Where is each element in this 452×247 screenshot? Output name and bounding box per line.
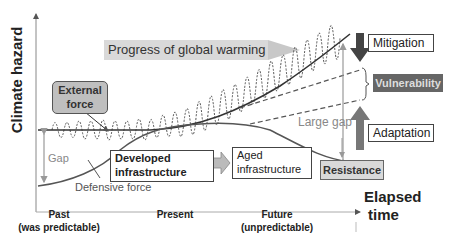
warming-arrow-head [268,40,300,60]
adaptation-box: Adaptation [368,124,434,142]
mitigation-box: Mitigation [368,34,434,52]
mitigation-arrow [350,33,370,62]
x-tick-present: Present [140,208,210,221]
aged-infrastructure-box: Aged infrastructure [232,147,312,179]
x-axis-label: Elapsed time [364,188,422,224]
large-gap-label: Large gap [298,115,352,129]
adaptation-arrow [350,106,370,150]
developed-infrastructure-box: Developed infrastructure [110,150,214,182]
x-tick-past: Past (was predictable) [14,208,104,234]
defensive-force-pointer [88,160,100,178]
dashed-line-upper [240,70,360,108]
x-tick-future: Future (unpredictable) [232,208,322,234]
defensive-force-label: Defensive force [75,181,151,193]
resistance-box: Resistance [320,160,384,180]
y-axis-label: Climate hazard [8,20,28,140]
transition-arrow [213,152,230,174]
vulnerability-bracket [362,68,369,100]
vulnerability-box: Vulnerability [373,74,443,92]
external-force-box: External force [52,81,108,114]
gap-label: Gap [48,152,69,164]
global-warming-banner: Progress of global warming [104,40,268,60]
